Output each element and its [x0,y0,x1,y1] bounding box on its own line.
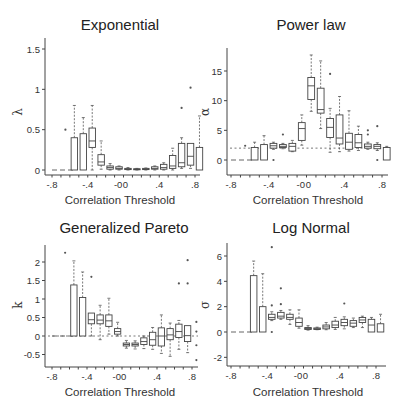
box-iqr [287,314,294,319]
outlier-point [195,330,197,332]
x-tick-label: -0 [297,179,305,190]
x-tick-label: -.8 [46,371,57,382]
box-plot [132,341,138,349]
panel-log-normal: Log Normal Correlation Threshold σ -2024… [198,219,386,398]
box-plot [80,118,86,170]
box-iqr [158,328,164,346]
x-tick-label: .4 [340,179,348,190]
box-plot [350,318,357,328]
box-plot [327,73,334,152]
plot-area: 00.511.5-.8-.4-00.4.8 [27,38,203,190]
outlier-point [178,282,180,284]
x-tick-label: -0 [294,370,302,381]
box-plot [71,105,77,170]
outlier-point [90,276,92,278]
y-tick-label: 10 [211,95,222,106]
y-tick-label: 0.5 [27,124,40,135]
panel-title: Power law [276,16,345,33]
box-plot [184,259,190,353]
y-tick-label: 1.5 [27,275,40,286]
y-axis-label: σ [198,301,212,309]
box-iqr [332,321,339,327]
box-plot [305,326,312,330]
x-tick-label: .4 [153,371,161,382]
box-plot [116,166,122,170]
box-iqr [269,314,276,319]
outlier-point [195,359,197,361]
box-plot [383,146,390,160]
outlier-point [271,331,273,333]
y-tick-label: -2 [214,352,222,363]
box-plot [64,129,66,131]
box-plot [107,164,113,170]
x-tick-label: -0 [114,179,122,190]
box-plot [141,336,147,349]
box-plot [158,315,164,353]
box-iqr [259,307,266,332]
outlier-point [376,125,378,127]
box-plot [98,141,104,169]
x-tick-label: -.4 [262,370,273,381]
outlier-point [272,159,274,161]
box-plot [196,116,202,170]
y-tick-label: 0 [217,327,222,338]
outlier-point [195,321,197,323]
outlier-point [271,246,273,248]
outlier-point [244,145,246,147]
x-tick-label: .8 [188,371,196,382]
box-iqr [368,319,375,332]
box-plot [346,111,353,151]
box-iqr [79,298,85,336]
outlier-point [195,344,197,346]
plot-area: 051015-.8-.4-00.4.8 [211,48,390,190]
panel-exponential: Exponential Correlation Threshold λ 00.5… [11,16,203,206]
y-axis-label: λ [11,108,25,116]
box-plot [278,287,285,319]
y-tick-label: 1.5 [27,44,40,55]
x-tick-label: 0 [306,179,311,190]
box-iqr [196,147,202,170]
panel-title: Log Normal [272,219,350,236]
x-tick-label: .8 [372,370,380,381]
box-plot [106,298,112,334]
panel-title: Generalized Pareto [59,219,188,236]
box-plot [123,340,129,348]
y-tick-label: 1 [35,84,40,95]
box-iqr [308,78,315,100]
y-tick-label: 4 [217,276,222,287]
box-iqr [251,148,258,160]
outlier-point [367,129,369,131]
box-plot [152,166,158,170]
x-tick-label: -.8 [225,179,236,190]
box-iqr [278,312,285,318]
box-plot [169,148,175,170]
box-iqr [346,133,353,149]
figure: Exponential Correlation Threshold λ 00.5… [0,0,403,415]
box-plot [161,163,167,170]
box-plot [176,282,182,349]
y-tick-label: 0 [35,165,40,176]
box-iqr [169,155,175,168]
box-iqr [383,148,390,160]
box-plot [332,317,339,329]
plot-area: -0.500.511.52-.8-.4-00.4.8 [24,245,198,382]
box-plot [187,87,193,169]
box-plot [97,305,103,339]
y-axis-label: α [198,108,212,116]
box-plot [244,145,246,147]
box-plot [374,125,381,161]
box-plot [341,302,348,328]
box-plot [250,261,257,332]
box-plot [298,115,305,145]
box-plot [88,276,94,336]
outlier-point [280,303,282,305]
box-iqr [97,315,103,324]
box-iqr [71,138,77,170]
outlier-point [280,287,282,289]
box-iqr [298,123,305,141]
box-iqr [89,128,95,147]
x-tick-label: -.8 [225,370,236,381]
box-iqr [327,118,334,137]
box-plot [364,129,371,149]
box-plot [64,252,66,254]
